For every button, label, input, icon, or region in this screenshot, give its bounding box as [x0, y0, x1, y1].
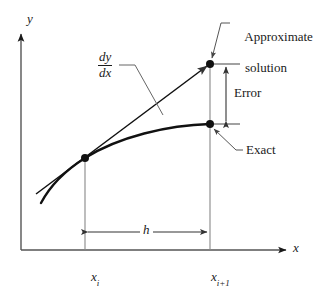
derivative-numerator: dy: [98, 50, 112, 64]
approximate-solution-label: Approximate solution: [232, 14, 313, 91]
x-axis-label: x: [293, 241, 299, 256]
exact-leader-line: [214, 129, 243, 150]
exact-label: Exact: [246, 143, 276, 158]
approximate-solution-leader-line: [212, 23, 230, 58]
point-start-marker: [81, 154, 89, 162]
y-axis-label: y: [27, 12, 33, 27]
tick-label-xi1-subscript: i+1: [217, 278, 230, 286]
derivative-label: dy dx: [98, 50, 112, 79]
euler-error-diagram: y x dy dx Approximate solution Error Exa…: [0, 0, 313, 286]
point-approximate-marker: [206, 60, 214, 68]
derivative-denominator: dx: [98, 66, 112, 80]
approximate-solution-line-1: Approximate: [244, 29, 313, 44]
exact-solution-curve: [41, 124, 210, 203]
tangent-line: [36, 66, 207, 194]
derivative-leader-line: [119, 65, 163, 115]
tick-label-xi: xi: [78, 255, 99, 286]
tick-label-xi-subscript: i: [97, 278, 100, 286]
tick-label-xi-base: x: [91, 269, 97, 284]
tick-label-xi1: xi+1: [198, 255, 230, 286]
error-label: Error: [234, 86, 261, 101]
step-size-label: h: [140, 223, 153, 238]
tick-label-xi1-base: x: [211, 269, 217, 284]
point-exact-marker: [206, 120, 214, 128]
approximate-solution-line-2: solution: [245, 60, 287, 75]
